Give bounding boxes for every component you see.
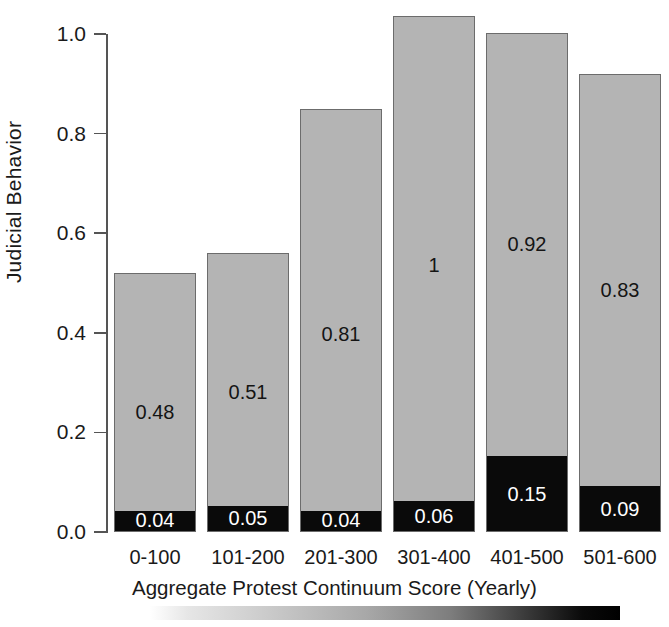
bar-segment-lower (301, 511, 381, 531)
y-tick-mark (94, 232, 106, 234)
bar-stack: 0.51 0.05 (207, 253, 289, 532)
x-tick-label-401-500: 401-500 (482, 546, 572, 569)
x-axis-title: Aggregate Protest Continuum Score (Yearl… (0, 576, 669, 600)
y-tick-label: 0.0 (22, 520, 86, 544)
intensity-gradient-bar (150, 606, 620, 620)
bar-segment-lower (115, 511, 195, 531)
bar-group-101-200[interactable]: 0.51 0.05 (207, 253, 289, 532)
x-tick-label-501-600: 501-600 (575, 546, 665, 569)
bar-group-201-300[interactable]: 0.81 0.04 (300, 109, 382, 532)
y-tick-mark (94, 531, 106, 533)
y-axis-line (106, 34, 108, 533)
y-tick-mark (94, 332, 106, 334)
bar-segment-lower (487, 456, 567, 531)
y-tick-mark (94, 432, 106, 434)
bar-stack: 1 0.06 (393, 16, 475, 532)
y-tick-label: 0.6 (22, 221, 86, 245)
bar-segment-lower (580, 486, 660, 531)
bar-group-401-500[interactable]: 0.92 0.15 (486, 33, 568, 532)
y-tick-mark (94, 133, 106, 135)
bar-stack: 0.83 0.09 (579, 74, 661, 532)
bar-group-301-400[interactable]: 1 0.06 (393, 16, 475, 532)
x-tick-label-301-400: 301-400 (389, 546, 479, 569)
x-tick-label-0-100: 0-100 (114, 546, 196, 569)
bar-segment-upper (301, 110, 381, 513)
bar-stack: 0.92 0.15 (486, 33, 568, 532)
y-tick-label: 0.4 (22, 321, 86, 345)
bar-segment-upper (208, 254, 288, 508)
bar-segment-upper (394, 17, 474, 503)
bar-chart-figure: Judicial Behavior 1.0 0.8 0.6 0.4 0.2 0.… (0, 0, 669, 627)
bar-segment-lower (208, 506, 288, 531)
bar-segment-upper (580, 75, 660, 488)
bar-segment-upper (487, 34, 567, 458)
bar-group-0-100[interactable]: 0.48 0.04 (114, 273, 196, 532)
y-tick-label: 1.0 (22, 22, 86, 46)
bar-stack: 0.48 0.04 (114, 273, 196, 532)
x-tick-label-101-200: 101-200 (203, 546, 293, 569)
bar-segment-lower (394, 501, 474, 531)
x-tick-label-201-300: 201-300 (296, 546, 386, 569)
y-tick-label: 0.8 (22, 122, 86, 146)
y-tick-label: 0.2 (22, 420, 86, 444)
y-tick-mark (94, 33, 106, 35)
bar-segment-upper (115, 274, 195, 513)
bar-stack: 0.81 0.04 (300, 109, 382, 532)
bar-group-501-600[interactable]: 0.83 0.09 (579, 74, 661, 532)
